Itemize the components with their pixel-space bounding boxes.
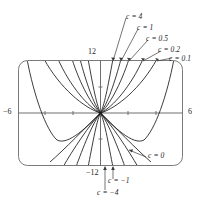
curve-label-c-4: c = 4 <box>126 13 142 21</box>
curve-label-c-0: c = 0 <box>148 152 164 160</box>
leader-c-1 <box>121 29 138 61</box>
curve-label-c-1: c = 1 <box>137 24 153 32</box>
x-axis-label-left: −6 <box>3 108 12 116</box>
curve-family-figure <box>0 0 201 208</box>
curve-label-c-0p5: c = 0.5 <box>146 35 168 43</box>
y-axis-label-bottom: −12 <box>86 169 99 177</box>
curve-label-c-minus-4: c = −4 <box>97 189 119 197</box>
leader-c-0p5 <box>129 40 148 61</box>
leader-arrowhead-c-0 <box>129 149 133 152</box>
curve-label-c-minus-1: c = −1 <box>108 177 130 185</box>
curve-label-c-0p1: c = 0.1 <box>169 55 191 63</box>
curve-label-c-0p2: c = 0.2 <box>158 46 180 54</box>
leader-arrowheads-bottom <box>103 166 115 170</box>
x-axis-label-right: 6 <box>188 108 192 116</box>
y-axis-label-top: 12 <box>88 48 96 56</box>
